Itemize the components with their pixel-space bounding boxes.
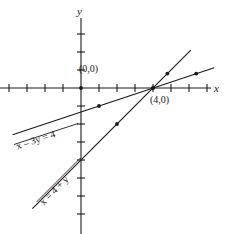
x-axis-label: x	[214, 83, 219, 94]
line-x-minus-3y-equals-4	[13, 68, 215, 135]
axes-group	[0, 18, 211, 234]
y-axis-label: y	[77, 6, 82, 17]
graph-figure: x y (0,0) (4,0) x – 3y = 4 x = 4 + y	[0, 0, 233, 234]
intersection-point-label: (4,0)	[150, 95, 169, 105]
intersection-dot	[151, 86, 155, 90]
line2-marker	[166, 72, 170, 76]
origin-dot	[79, 86, 83, 90]
line1-marker	[97, 104, 101, 108]
origin-point-label: (0,0)	[79, 64, 98, 74]
data-point-markers	[79, 72, 198, 126]
coordinate-plane	[0, 0, 233, 234]
line2-marker	[115, 122, 119, 126]
line1-marker	[194, 72, 198, 76]
